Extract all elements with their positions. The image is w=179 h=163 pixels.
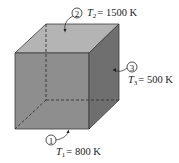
marker-number-2: 2	[75, 9, 80, 19]
arrowhead-1	[67, 130, 70, 134]
surface-1-marker: 1	[46, 130, 70, 146]
surface-2-label: T2= 1500 K	[87, 7, 138, 20]
front-face	[15, 53, 89, 129]
cube-diagram: 2 T2= 1500 K 3 T3= 500 K 1 T1= 800 K	[0, 0, 179, 163]
surface-3-label: T3= 500 K	[128, 74, 173, 87]
leader-arrow-1	[56, 132, 68, 140]
surface-1-label: T1= 800 K	[56, 146, 101, 159]
marker-number-3: 3	[130, 63, 135, 73]
marker-number-1: 1	[49, 136, 54, 146]
